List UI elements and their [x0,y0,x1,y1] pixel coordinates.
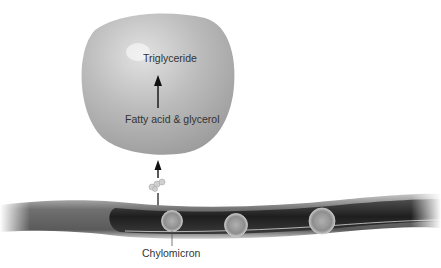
chylomicron-particle [162,211,183,232]
label-chylomicron: Chylomicron [142,247,200,259]
fatty-acid-molecule-icon [149,179,165,192]
chylomicron-particle [225,214,248,237]
chylomicron-particle [309,208,335,234]
label-fatty-acid-glycerol: Fatty acid & glycerol [125,113,220,125]
diagram-canvas [0,0,441,268]
label-triglyceride: Triglyceride [143,52,197,64]
